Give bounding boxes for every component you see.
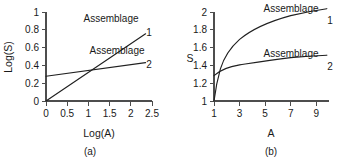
chart-b-xtick-label: 1 [211,108,217,119]
chart-a-y-axis-title: Log(S) [2,41,14,73]
chart-a-svg: 1 0.8 0.6 0.4 0.2 0 0 0.5 1 1.5 2 2.5 [0,0,174,160]
chart-a-series-1-number: 1 [146,27,152,38]
chart-a-x-axis-title: Log(A) [83,127,115,139]
chart-b-xtick-label: 7 [288,108,294,119]
chart-a-xtick-label: 1.5 [103,108,117,119]
chart-a-ytick-label: 0.2 [25,78,39,89]
chart-a-xtick-label: 0.5 [60,108,74,119]
chart-b-series-1-label: Assemblage [263,3,318,14]
chart-panel-b: 2 1.8 1.6 1.4 1.2 1 1 3 5 7 9 Assemblage [174,0,348,160]
chart-a-xtick-label: 2.5 [145,108,159,119]
chart-a-series-2-label: Assemblage [89,45,144,56]
chart-a-ytick-label: 1 [33,7,39,18]
chart-b-xtick-label: 5 [262,108,268,119]
chart-a-caption: (a) [84,146,96,157]
chart-b-y-axis-title: S [186,52,193,64]
chart-b-ytick-label: 1 [201,96,207,107]
chart-b-svg: 2 1.8 1.6 1.4 1.2 1 1 3 5 7 9 Assemblage [174,0,348,160]
chart-b-ytick-label: 1.8 [193,24,207,35]
chart-a-series-1-label: Assemblage [83,13,138,24]
chart-b-series-1-number: 1 [327,15,333,26]
chart-a-xtick-label: 1 [86,108,92,119]
chart-a-series-1-line [46,34,146,101]
chart-b-ytick-label: 1.4 [193,60,207,71]
chart-a-xtick-label: 0 [43,108,49,119]
chart-b-ytick-label: 2 [201,7,207,18]
chart-panel-a: 1 0.8 0.6 0.4 0.2 0 0 0.5 1 1.5 2 2.5 [0,0,174,160]
chart-a-ytick-label: 0 [33,96,39,107]
chart-b-x-axis-title: A [267,127,274,139]
chart-a-xtick-label: 2 [128,108,134,119]
chart-b-series-2-number: 2 [327,61,333,72]
figure-container: 1 0.8 0.6 0.4 0.2 0 0 0.5 1 1.5 2 2.5 [0,0,348,160]
chart-b-series-2-label: Assemblage [263,48,318,59]
chart-b-ytick-label: 1.6 [193,42,207,53]
chart-b-xtick-label: 3 [237,108,243,119]
chart-b-ytick-label: 1.2 [193,78,207,89]
chart-a-ytick-label: 0.4 [25,60,39,71]
chart-a-series-2-line [46,63,146,77]
chart-b-xtick-label: 9 [313,108,319,119]
chart-a-ytick-label: 0.8 [25,24,39,35]
chart-b-caption: (b) [265,146,277,157]
chart-a-series-2-number: 2 [146,59,152,70]
chart-a-ytick-label: 0.6 [25,42,39,53]
